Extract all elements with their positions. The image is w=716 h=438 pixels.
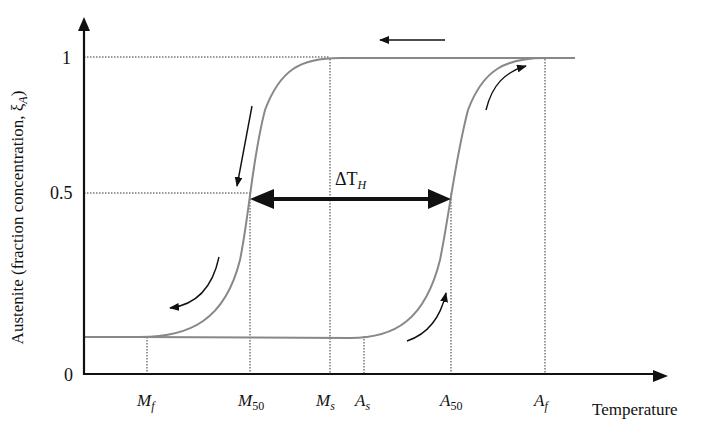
y-tick-0.5: 0.5	[50, 184, 73, 202]
bottom-left-arrow-icon	[170, 257, 219, 308]
y-axis-arrow-icon	[78, 17, 90, 31]
x-axis-title: Temperature	[592, 401, 678, 418]
delta-th-arrow	[250, 189, 451, 209]
x-axis-arrow-icon	[653, 370, 668, 382]
x-tick-as: As	[355, 392, 370, 412]
hysteresis-chart	[0, 0, 716, 438]
guide-lines	[84, 57, 545, 374]
axes	[83, 28, 655, 375]
x-tick-m50: M50	[238, 392, 264, 412]
y-axis-title: Austenite (fraction concentration, ξA)	[8, 58, 31, 378]
y-tick-0: 0	[64, 366, 73, 384]
delta-th-label: ΔTH	[335, 170, 366, 191]
down-arrow-icon	[237, 106, 252, 186]
x-tick-a50: A50	[440, 392, 462, 412]
x-tick-af: Af	[534, 392, 548, 412]
x-tick-mf: Mf	[137, 392, 155, 412]
x-tick-ms: Ms	[316, 392, 335, 412]
y-tick-1: 1	[62, 49, 71, 67]
bottom-right-arrow-icon	[407, 293, 446, 341]
